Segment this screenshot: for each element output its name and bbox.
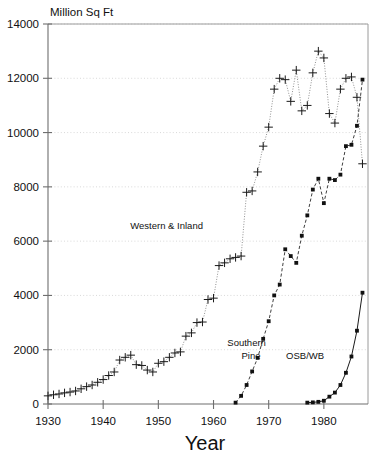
line-chart: 02000400060008000100001200014000 1930194… <box>0 0 377 458</box>
data-point-osb-wb <box>344 371 348 375</box>
series-annotation: Southern <box>227 337 266 348</box>
x-axis-title: Year <box>185 432 226 454</box>
data-point-southern-pine <box>294 261 298 265</box>
x-tick-label: 1930 <box>35 415 61 427</box>
y-tick-label: 6000 <box>13 235 39 247</box>
y-axis-title: Million Sq Ft <box>50 6 114 18</box>
data-point-osb-wb <box>355 329 359 333</box>
x-tick-label: 1940 <box>90 415 116 427</box>
data-point-southern-pine <box>283 247 287 251</box>
data-point-southern-pine <box>344 144 348 148</box>
data-point-southern-pine <box>350 143 354 147</box>
x-tick-label: 1950 <box>146 415 172 427</box>
y-tick-label: 2000 <box>13 344 39 356</box>
data-point-southern-pine <box>278 283 282 287</box>
data-point-osb-wb <box>322 399 326 403</box>
data-point-southern-pine <box>239 394 243 398</box>
y-tick-label: 14000 <box>7 18 39 30</box>
data-point-osb-wb <box>327 395 331 399</box>
data-point-southern-pine <box>339 173 343 177</box>
y-tick-label: 0 <box>33 398 39 410</box>
x-tick-label: 1960 <box>201 415 227 427</box>
data-point-southern-pine <box>250 370 254 374</box>
data-point-osb-wb <box>305 401 309 405</box>
y-tick-label: 4000 <box>13 289 39 301</box>
data-point-southern-pine <box>355 124 359 128</box>
data-point-southern-pine <box>272 294 276 298</box>
data-point-southern-pine <box>311 188 315 192</box>
data-point-osb-wb <box>339 383 343 387</box>
data-point-osb-wb <box>311 400 315 404</box>
data-point-southern-pine <box>245 383 249 387</box>
y-tick-label: 12000 <box>7 72 39 84</box>
series-annotation: Western & Inland <box>130 220 203 231</box>
x-tick-label: 1970 <box>256 415 282 427</box>
data-point-southern-pine <box>305 213 309 217</box>
series-annotation: OSB/WB <box>286 350 324 361</box>
chart-container: 02000400060008000100001200014000 1930194… <box>0 0 377 458</box>
data-point-osb-wb <box>316 400 320 404</box>
data-point-osb-wb <box>350 355 354 359</box>
data-point-southern-pine <box>327 177 331 181</box>
series-annotation: Pine <box>242 350 261 361</box>
data-point-southern-pine <box>316 177 320 181</box>
data-point-southern-pine <box>361 78 365 82</box>
data-point-osb-wb <box>361 291 365 295</box>
data-point-southern-pine <box>322 201 326 205</box>
data-point-southern-pine <box>300 234 304 238</box>
x-tick-label: 1980 <box>311 415 337 427</box>
data-point-southern-pine <box>289 254 293 258</box>
y-tick-label: 8000 <box>13 181 39 193</box>
data-point-southern-pine <box>333 178 337 182</box>
data-point-southern-pine <box>234 401 238 405</box>
data-point-southern-pine <box>267 319 271 323</box>
y-tick-label: 10000 <box>7 127 39 139</box>
data-point-osb-wb <box>333 391 337 395</box>
